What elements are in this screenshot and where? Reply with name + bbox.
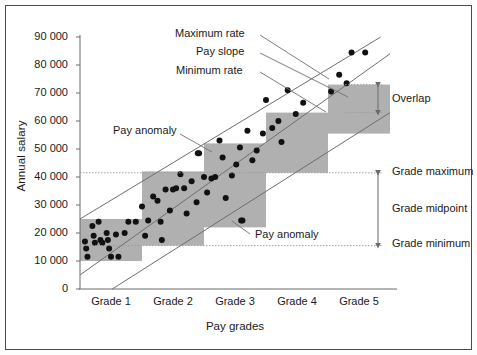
data-point [204, 189, 210, 195]
data-point [142, 233, 148, 239]
data-point [115, 254, 121, 260]
annotation-leader [260, 72, 326, 112]
data-point [99, 240, 105, 246]
data-point [155, 198, 161, 204]
x-tick-label-3: Grade 3 [200, 295, 270, 307]
data-point [167, 208, 173, 214]
side-label-grade-maximum: Grade maximum [392, 165, 473, 177]
data-point [184, 210, 190, 216]
data-point [106, 245, 112, 251]
grade-band [204, 143, 266, 227]
data-point [362, 49, 368, 55]
y-tick-label: 30 000 [8, 198, 68, 210]
data-point [105, 237, 111, 243]
data-point [96, 219, 102, 225]
data-point [177, 171, 183, 177]
x-tick-label-2: Grade 2 [138, 295, 208, 307]
annotation-leader [260, 35, 329, 79]
y-tick-label: 20 000 [8, 226, 68, 238]
data-point [181, 185, 187, 191]
side-label-grade-minimum: Grade minimum [392, 237, 470, 249]
y-tick-label: 50 000 [8, 142, 68, 154]
data-point [194, 199, 200, 205]
y-tick-label: 0 [8, 282, 68, 294]
data-point [92, 240, 98, 246]
annotation-leader [260, 53, 348, 97]
data-point [89, 223, 95, 229]
annotation-pay-anomaly-lower: Pay anomaly [255, 228, 319, 240]
x-tick-label-5: Grade 5 [324, 295, 394, 307]
data-point [249, 157, 255, 163]
data-point [223, 195, 229, 201]
data-point [125, 219, 131, 225]
data-point [82, 238, 88, 244]
data-point [229, 173, 235, 179]
data-point [263, 97, 269, 103]
data-point [349, 49, 355, 55]
grade-band [266, 113, 328, 173]
data-point [254, 147, 260, 153]
data-point [113, 231, 119, 237]
data-point [145, 217, 151, 223]
data-point [133, 219, 139, 225]
data-point [293, 111, 299, 117]
y-tick-label: 70 000 [8, 86, 68, 98]
annotation-pay-anomaly-upper: Pay anomaly [113, 124, 177, 136]
annotation-minimum-rate: Minimum rate [176, 64, 243, 76]
y-tick-label: 40 000 [8, 170, 68, 182]
data-point [260, 131, 266, 137]
data-point [150, 194, 156, 200]
data-point [237, 145, 243, 151]
side-label-grade-midpoint: Grade midpoint [392, 202, 467, 214]
data-point [201, 174, 207, 180]
annotation-pay-slope: Pay slope [196, 45, 244, 57]
data-point [238, 217, 244, 223]
data-point [233, 161, 239, 167]
data-point [344, 80, 350, 86]
annotation-maximum-rate: Maximum rate [175, 27, 245, 39]
data-point [84, 254, 90, 260]
data-point [83, 245, 89, 251]
data-point [104, 230, 110, 236]
data-point [336, 72, 342, 78]
data-point [158, 219, 164, 225]
data-point [217, 138, 223, 144]
data-point [159, 237, 165, 243]
y-tick-label: 80 000 [8, 58, 68, 70]
data-point [196, 150, 202, 156]
side-label-overlap: Overlap [392, 92, 431, 104]
data-point [108, 254, 114, 260]
data-point [163, 187, 169, 193]
data-point [275, 118, 281, 124]
data-point [122, 230, 128, 236]
y-tick-label: 90 000 [8, 30, 68, 42]
data-point [91, 233, 97, 239]
data-point [212, 174, 218, 180]
data-point [189, 178, 195, 184]
data-point [269, 125, 275, 131]
y-tick-label: 60 000 [8, 114, 68, 126]
data-point [173, 185, 179, 191]
x-tick-label-4: Grade 4 [262, 295, 332, 307]
data-point [220, 154, 226, 160]
data-point [279, 139, 285, 145]
data-point [244, 128, 250, 134]
figure-container: Annual salary Pay grades 010 00020 00030… [0, 0, 477, 355]
data-point [139, 203, 145, 209]
y-tick-label: 10 000 [8, 254, 68, 266]
data-point [300, 100, 306, 106]
x-tick-label-1: Grade 1 [76, 295, 146, 307]
